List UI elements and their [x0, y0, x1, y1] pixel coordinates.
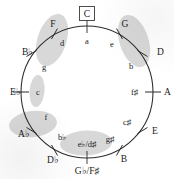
minor-label-csharp: c♯	[123, 117, 132, 127]
minor-label-bb: b♭	[58, 132, 66, 142]
major-label-Db: D♭	[47, 155, 59, 165]
major-label-F: F	[50, 19, 55, 29]
minor-label-c: c	[36, 87, 40, 97]
minor-label-gsharp: g♯	[106, 134, 115, 144]
major-label-E: E	[152, 126, 158, 136]
minor-label-fsharp: f♯	[131, 87, 139, 97]
major-label-D: D	[157, 47, 164, 57]
minor-label-f: f	[45, 112, 48, 122]
major-label-Eb: E♭	[10, 87, 21, 97]
minor-label-e: e	[110, 39, 114, 49]
diagram-canvas: C G D A E B G♭/F♯ D♭ A♭ E♭ B♭ F a e b f♯…	[0, 0, 174, 179]
major-label-B: B	[121, 154, 127, 164]
highlight-layer	[8, 10, 156, 157]
minor-label-b: b	[129, 61, 133, 71]
highlight-g-e-d-b	[112, 11, 156, 71]
circle-of-fifths-diagram: C G D A E B G♭/F♯ D♭ A♭ E♭ B♭ F a e b f♯…	[0, 0, 174, 179]
boxed-key-C: C	[80, 7, 95, 21]
major-label-Bb: B♭	[22, 47, 33, 57]
highlight-ab-f	[8, 109, 58, 140]
major-label-Gb-Fsharp: G♭/F♯	[75, 166, 100, 176]
minor-label-eb-dsharp: e♭/d♯	[78, 139, 97, 149]
major-label-A: A	[164, 87, 171, 97]
major-label-C: C	[84, 9, 90, 19]
major-label-G: G	[122, 19, 129, 29]
major-label-Ab: A♭	[18, 129, 30, 139]
minor-label-a: a	[85, 36, 89, 46]
